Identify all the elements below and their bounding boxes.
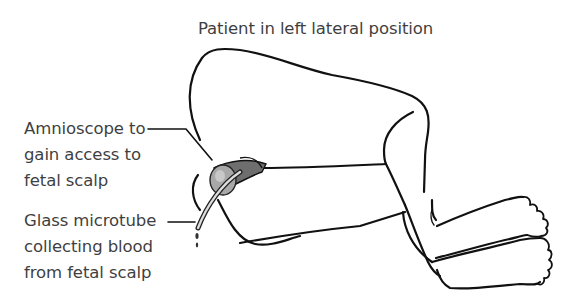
blood-drop-1 [195,233,198,239]
microtube-label-line-1: Glass microtube [24,208,156,234]
amnioscope-label: Amnioscope to gain access to fetal scalp [24,116,145,194]
upper-foot-sole [436,235,527,258]
lower-foot-sole [437,270,540,289]
microtube-label-line-2: collecting blood [24,234,156,260]
thigh-lower-line [240,212,405,243]
amnioscope-label-line-3: fetal scalp [24,168,145,194]
buttock-lower [218,200,300,245]
upper-toes [523,197,548,237]
shin-line [405,205,440,276]
buttock-left [193,175,200,210]
amnioscope-label-line-1: Amnioscope to [24,116,145,142]
lower-foot-top [432,238,540,262]
amnioscope-label-line-2: gain access to [24,142,145,168]
lower-leg-front [386,164,405,205]
lower-toes [538,238,552,285]
microtube-label: Glass microtube collecting blood from fe… [24,208,156,286]
thigh-upper-line [262,164,386,168]
upper-foot [432,197,523,226]
microtube-label-line-3: from fetal scalp [24,260,156,286]
figure-title: Patient in left lateral position [198,16,433,42]
thigh-crease [384,112,413,164]
blood-drop-2 [196,243,198,248]
amnioscope-leader [148,129,212,160]
